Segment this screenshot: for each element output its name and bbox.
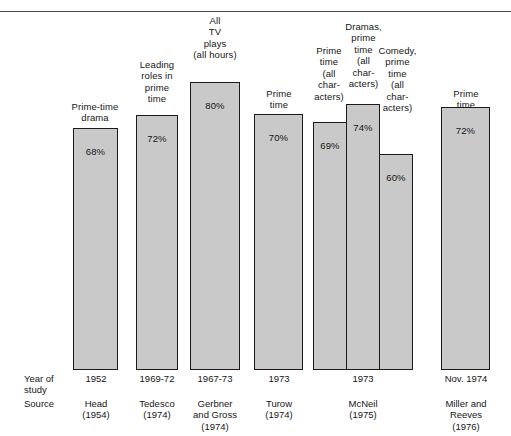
bar-caption-6: Dramas, prime time (all char- acters) <box>345 21 382 89</box>
bar-value-5: 69% <box>314 140 346 151</box>
bar-chart-figure: Prime-time drama 68% Leading roles in pr… <box>0 0 511 436</box>
bar-3: 80% <box>190 82 240 370</box>
bar-value-8: 72% <box>442 125 489 136</box>
year-cell-1: 1952 <box>66 373 126 384</box>
bar-value-7: 60% <box>380 172 412 183</box>
bar-5: 69% <box>313 122 347 370</box>
year-cell-6: Nov. 1974 <box>432 373 500 384</box>
bar-caption-3: All TV plays (all hours) <box>184 15 246 61</box>
bar-4: 70% <box>254 114 303 370</box>
source-cell-1: Head (1954) <box>66 398 126 421</box>
bar-value-1: 68% <box>74 146 117 157</box>
year-cell-4: 1973 <box>249 373 309 384</box>
source-cell-5: McNeil (1975) <box>333 398 393 421</box>
year-cell-5: 1973 <box>333 373 393 384</box>
year-cell-3: 1967-73 <box>185 373 245 384</box>
source-cell-4: Turow (1974) <box>249 398 309 421</box>
bar-value-3: 80% <box>191 100 239 111</box>
year-cell-2: 1969-72 <box>127 373 187 384</box>
source-cell-6: Miller and Reeves (1976) <box>430 398 502 432</box>
source-cell-3: Gerbner and Gross (1974) <box>183 398 247 432</box>
bar-value-4: 70% <box>255 132 302 143</box>
bar-caption-5: Prime time (all char- acters) <box>311 45 347 102</box>
bar-8: 72% <box>441 107 490 370</box>
source-cell-2: Tedesco (1974) <box>127 398 187 421</box>
bar-value-6: 74% <box>347 122 379 133</box>
bar-caption-4: Prime time <box>250 88 308 111</box>
bar-caption-1: Prime-time drama <box>58 101 132 124</box>
bar-value-2: 72% <box>137 133 177 144</box>
bar-1: 68% <box>73 128 118 370</box>
bar-7: 60% <box>379 154 413 370</box>
bar-2: 72% <box>136 115 178 370</box>
bar-caption-7: Comedy, prime time (all char- acters) <box>378 45 417 113</box>
bar-caption-2: Leading roles in prime time <box>128 59 186 105</box>
plot-area: Prime-time drama 68% Leading roles in pr… <box>0 12 511 370</box>
bar-6: 74% <box>346 104 380 370</box>
